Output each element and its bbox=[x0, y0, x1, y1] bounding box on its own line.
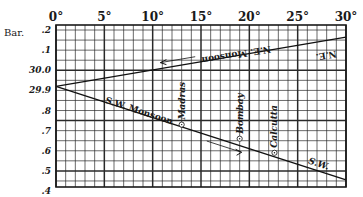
x-tick-label: 15° bbox=[190, 10, 213, 24]
y-tick-label: 29.9 bbox=[28, 85, 52, 95]
station-bombay: Bombay bbox=[235, 92, 245, 141]
y-axis-label: Bar. bbox=[4, 27, 24, 38]
station-marker-dot bbox=[181, 124, 182, 125]
y-tick-label: .6 bbox=[42, 146, 52, 156]
ne-end-label: N.E. bbox=[315, 49, 337, 62]
y-tick-label: 30.0 bbox=[29, 65, 52, 75]
x-tick-label: 20° bbox=[238, 10, 261, 24]
y-tick-label: .2 bbox=[42, 25, 51, 35]
station-marker-dot bbox=[239, 138, 240, 139]
monsoon-barometer-chart: 0°5°10°15°20°25°30° .2.130.029.9.8.7.6.5… bbox=[0, 0, 363, 197]
station-label: Madras bbox=[177, 82, 187, 121]
grid-major bbox=[56, 25, 346, 187]
station-label: Bombay bbox=[235, 92, 245, 134]
station-annotations: MadrasBombayCalcutta bbox=[177, 82, 280, 156]
station-marker-dot bbox=[274, 152, 275, 153]
arrow-right-icon bbox=[236, 149, 242, 155]
x-tick-label: 0° bbox=[49, 10, 63, 24]
y-tick-label: .1 bbox=[42, 45, 51, 55]
x-tick-label: 25° bbox=[286, 10, 309, 24]
station-madras: Madras bbox=[177, 82, 187, 127]
y-tick-label: .7 bbox=[42, 126, 52, 136]
y-tick-label: .5 bbox=[42, 166, 51, 176]
y-tick-label: .4 bbox=[42, 186, 51, 196]
y-axis-ticks: .2.130.029.9.8.7.6.5.4 bbox=[28, 25, 52, 196]
x-axis-ticks: 0°5°10°15°20°25°30° bbox=[49, 10, 358, 24]
ne-monsoon-label: N.E. Monsoon bbox=[200, 44, 271, 66]
x-tick-label: 5° bbox=[97, 10, 111, 24]
station-label: Calcutta bbox=[269, 105, 279, 148]
station-calcutta: Calcutta bbox=[269, 105, 279, 155]
x-tick-label: 10° bbox=[141, 10, 164, 24]
y-tick-label: .8 bbox=[42, 106, 52, 116]
x-tick-label: 30° bbox=[335, 10, 358, 24]
